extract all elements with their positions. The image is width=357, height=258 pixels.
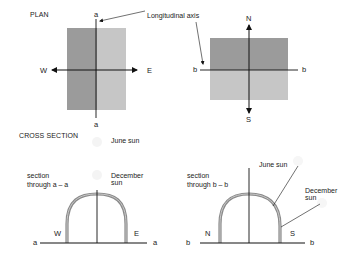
- right-south-label: S: [290, 230, 295, 237]
- longitudinal-axis-label: Longitudinal axis: [147, 12, 199, 19]
- plan-right-axis-right-label: b: [302, 66, 306, 73]
- cross-section-title: CROSS SECTION: [19, 132, 78, 139]
- plan-right-south-label: S: [246, 116, 251, 123]
- left-december-sun-label-1: December: [111, 172, 143, 179]
- orientation-diagram: PLAN a a W E Longitudinal axis N S b b C…: [0, 0, 357, 258]
- right-base-left-label: b: [186, 239, 190, 246]
- plan-right-axis-left-label: b: [193, 66, 197, 73]
- december-sun-icon-right: [317, 198, 327, 208]
- longitudinal-leader-right: [196, 22, 203, 64]
- right-december-sun-label-2: sun: [305, 194, 316, 201]
- plan-left-axis-bottom-label: a: [94, 121, 98, 128]
- plan-left-west-label: W: [40, 67, 47, 74]
- left-section-label-2: through a – a: [27, 181, 68, 188]
- diagram-graphics: [0, 0, 357, 258]
- june-sun-icon: [92, 137, 102, 147]
- left-west-label: W: [54, 230, 61, 237]
- right-section-label-2: through b – b: [187, 181, 228, 188]
- right-section-label-1: section: [187, 172, 209, 179]
- plan-right-north-label: N: [246, 15, 251, 22]
- left-base-right-label: a: [153, 239, 157, 246]
- plan-left-east-label: E: [147, 67, 152, 74]
- december-sun-icon: [92, 170, 102, 180]
- june-sun-leader: [273, 166, 298, 206]
- right-north-label: N: [205, 230, 210, 237]
- left-december-sun-label-2: sun: [111, 179, 122, 186]
- right-december-sun-label-1: December: [305, 187, 337, 194]
- left-base-left-label: a: [33, 239, 37, 246]
- longitudinal-leader-left: [100, 11, 145, 21]
- left-section-label-1: section: [27, 172, 49, 179]
- left-east-label: E: [134, 230, 139, 237]
- plan-title: PLAN: [30, 11, 49, 18]
- plan-left-building: [67, 28, 126, 110]
- right-june-sun-label: June sun: [259, 161, 287, 168]
- december-sun-leader: [281, 204, 320, 227]
- left-june-sun-label: June sun: [111, 137, 139, 144]
- plan-left-axis-top-label: a: [94, 11, 98, 18]
- sun-path-arc-left: [67, 194, 126, 243]
- june-sun-icon-right: [293, 156, 303, 166]
- right-base-right-label: b: [310, 239, 314, 246]
